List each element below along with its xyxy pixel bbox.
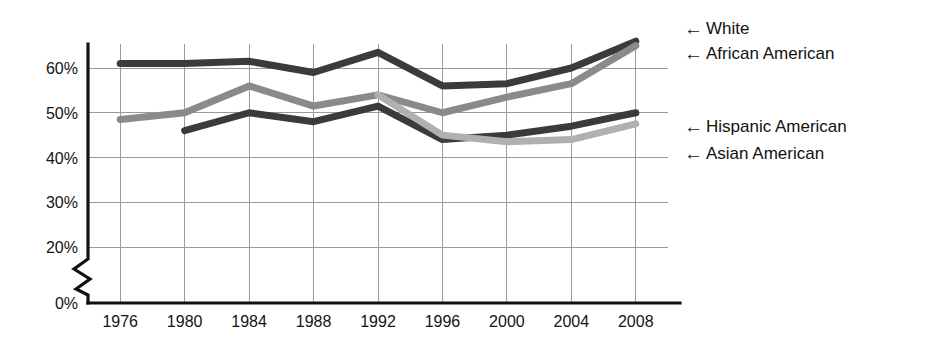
legend-label-white: White <box>706 19 749 38</box>
y-axis-tick-label: 50% <box>46 105 78 122</box>
line-chart: 0%20%30%40%50%60% 1976198019841988199219… <box>0 0 928 349</box>
legend-label-african-american: African American <box>706 44 835 63</box>
legend-label-hispanic-american: Hispanic American <box>706 117 847 136</box>
x-axis-tick-labels: 197619801984198819921996200020042008 <box>102 313 653 330</box>
y-axis-tick-label: 40% <box>46 150 78 167</box>
y-axis-tick-label: 60% <box>46 60 78 77</box>
x-axis-tick-label: 1976 <box>102 313 138 330</box>
y-axis-tick-label: 0% <box>55 295 78 312</box>
x-axis-tick-label: 2004 <box>554 313 590 330</box>
legend-arrow-icon: ← <box>684 43 703 64</box>
legend-arrow-icon: ← <box>684 143 703 164</box>
axes-group <box>74 44 680 303</box>
x-axis-tick-label: 1988 <box>296 313 332 330</box>
legend-group: ←White←African American←Hispanic America… <box>684 18 847 164</box>
y-axis-with-break <box>74 44 90 303</box>
x-axis-tick-label: 1980 <box>167 313 203 330</box>
y-axis-tick-label: 30% <box>46 194 78 211</box>
gridlines-group <box>88 44 668 303</box>
legend-label-asian-american: Asian American <box>706 144 824 163</box>
y-axis-tick-labels: 0%20%30%40%50%60% <box>46 60 78 312</box>
x-axis-tick-label: 1992 <box>360 313 396 330</box>
chart-container: 0%20%30%40%50%60% 1976198019841988199219… <box>0 0 928 349</box>
legend-arrow-icon: ← <box>684 18 703 39</box>
x-axis-tick-label: 2000 <box>489 313 525 330</box>
legend-arrow-icon: ← <box>684 116 703 137</box>
x-axis-tick-label: 1984 <box>231 313 267 330</box>
y-axis-tick-label: 20% <box>46 239 78 256</box>
x-axis-tick-label: 2008 <box>618 313 654 330</box>
x-axis-tick-label: 1996 <box>425 313 461 330</box>
